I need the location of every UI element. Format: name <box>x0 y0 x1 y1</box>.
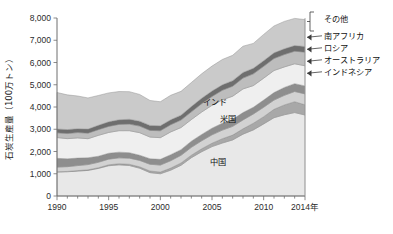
chart-canvas: 01,0002,0003,0004,0005,0006,0007,0008,00… <box>0 0 393 234</box>
x-tick-label: 2014年 <box>291 202 319 212</box>
x-axis-ticks: 199019952000200520102014年 <box>48 196 319 212</box>
inner-series-label: インド <box>203 97 227 107</box>
legend-label-ロシア: ロシア <box>324 43 348 53</box>
y-tick-label: 7,000 <box>30 35 52 45</box>
legend-arrow-head <box>307 34 312 40</box>
y-tick-label: 5,000 <box>30 80 52 90</box>
legend-label-インドネシア: インドネシア <box>324 67 372 77</box>
legend-label-南アフリカ: 南アフリカ <box>324 31 364 41</box>
y-tick-label: 4,000 <box>30 102 52 112</box>
x-tick-label: 2000 <box>151 202 170 212</box>
x-tick-label: 1995 <box>99 202 118 212</box>
legend-arrow-head <box>307 58 312 64</box>
y-tick-label: 8,000 <box>30 13 52 23</box>
y-tick-label: 2,000 <box>30 147 52 157</box>
legend-label-オーストラリア: オーストラリア <box>324 55 380 65</box>
legend-bracket-その他 <box>307 12 314 31</box>
series-legend: その他南アフリカロシアオーストラリアインドネシア <box>307 12 380 77</box>
y-axis-ticks: 01,0002,0003,0004,0005,0006,0007,0008,00… <box>30 13 57 201</box>
y-tick-label: 3,000 <box>30 124 52 134</box>
x-tick-label: 2010 <box>254 202 273 212</box>
inner-series-label: 中国 <box>210 157 226 167</box>
x-tick-label: 1990 <box>48 202 67 212</box>
coal-production-stacked-area-figure: 01,0002,0003,0004,0005,0006,0007,0008,00… <box>0 0 393 234</box>
legend-arrow-head <box>307 70 312 76</box>
y-tick-label: 0 <box>46 191 51 201</box>
stacked-area-bands <box>57 18 305 196</box>
inner-series-label: 米国 <box>220 114 236 124</box>
y-axis-title-text: 石炭生産量（100万トン） <box>4 54 14 160</box>
y-axis-title: 石炭生産量（100万トン） <box>4 54 14 160</box>
y-tick-label: 1,000 <box>30 169 52 179</box>
legend-label-その他: その他 <box>324 14 348 24</box>
y-tick-label: 6,000 <box>30 58 52 68</box>
x-tick-label: 2005 <box>203 202 222 212</box>
legend-arrow-head <box>307 46 312 52</box>
